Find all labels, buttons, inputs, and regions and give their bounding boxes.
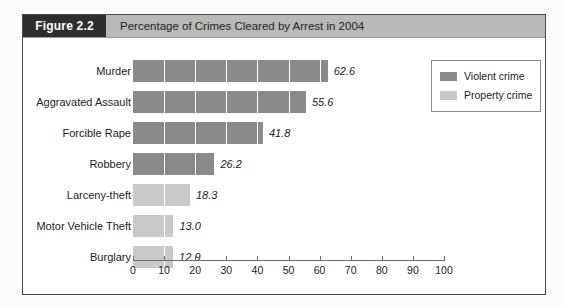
figure-number-tag: Figure 2.2 — [23, 15, 106, 37]
category-label: Burglary — [0, 246, 131, 268]
x-axis-tick — [289, 256, 290, 261]
bar-row: Forcible Rape41.8 — [23, 122, 545, 144]
category-label: Motor Vehicle Theft — [0, 215, 131, 237]
legend-item: Property crime — [440, 87, 532, 103]
legend-item: Violent crime — [440, 68, 532, 84]
x-axis-tick — [413, 256, 414, 261]
category-label: Murder — [0, 60, 131, 82]
x-axis-tick-label: 90 — [407, 264, 419, 276]
legend-label: Property crime — [464, 89, 532, 101]
bar-row: Robbery26.2 — [23, 153, 545, 175]
chart-legend: Violent crimeProperty crime — [431, 60, 541, 112]
x-axis-tick — [164, 256, 165, 261]
bar-row: Larceny-theft18.3 — [23, 184, 545, 206]
bar — [133, 215, 173, 237]
figure-caption: Percentage of Crimes Cleared by Arrest i… — [106, 15, 545, 37]
x-axis-tick — [226, 256, 227, 261]
x-axis-tick — [195, 256, 196, 261]
figure-container: Figure 2.2 Percentage of Crimes Cleared … — [22, 14, 546, 295]
value-label: 55.6 — [312, 91, 333, 113]
x-axis-tick-label: 100 — [435, 264, 453, 276]
chart-plot-area: Murder62.6Aggravated Assault55.6Forcible… — [23, 38, 545, 296]
x-axis-tick — [382, 256, 383, 261]
bar — [133, 91, 306, 113]
bar — [133, 153, 214, 175]
figure-header: Figure 2.2 Percentage of Crimes Cleared … — [23, 15, 545, 38]
bar-row: Motor Vehicle Theft13.0 — [23, 215, 545, 237]
x-axis-tick-label: 60 — [314, 264, 326, 276]
value-label: 41.8 — [269, 122, 290, 144]
value-label: 26.2 — [220, 153, 241, 175]
category-label: Larceny-theft — [0, 184, 131, 206]
x-axis-tick — [444, 256, 445, 261]
x-axis-tick-label: 30 — [220, 264, 232, 276]
x-axis-tick — [320, 256, 321, 261]
x-axis-tick-label: 40 — [252, 264, 264, 276]
value-label: 18.3 — [196, 184, 217, 206]
x-axis-tick-label: 50 — [283, 264, 295, 276]
bar — [133, 122, 263, 144]
x-axis-tick-label: 20 — [189, 264, 201, 276]
value-label: 62.6 — [334, 60, 355, 82]
x-axis-tick — [257, 256, 258, 261]
bar — [133, 184, 190, 206]
category-label: Aggravated Assault — [0, 91, 131, 113]
x-axis-tick — [133, 256, 134, 261]
x-axis-tick-label: 0 — [130, 264, 136, 276]
category-label: Forcible Rape — [0, 122, 131, 144]
legend-label: Violent crime — [464, 70, 525, 82]
value-label: 13.0 — [179, 215, 200, 237]
legend-swatch — [440, 91, 457, 100]
bar — [133, 60, 328, 82]
category-label: Robbery — [0, 153, 131, 175]
legend-swatch — [440, 72, 457, 81]
x-axis-tick-label: 70 — [345, 264, 357, 276]
x-axis-tick — [351, 256, 352, 261]
x-axis-tick-label: 80 — [376, 264, 388, 276]
x-axis-tick-label: 10 — [158, 264, 170, 276]
